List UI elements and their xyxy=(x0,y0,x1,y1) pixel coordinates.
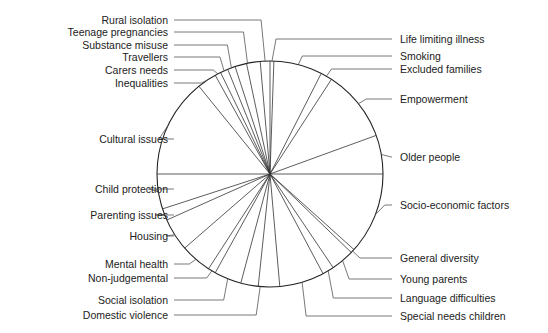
leader-line xyxy=(174,57,224,71)
pie-chart: Life limiting illnessSmokingExcluded fam… xyxy=(0,0,548,333)
slice-label: Special needs children xyxy=(400,310,506,322)
leader-line xyxy=(174,271,212,278)
slice-label: Non-judgemental xyxy=(88,272,168,284)
slice-label: Social isolation xyxy=(98,294,168,306)
slice-label: Smoking xyxy=(400,50,441,62)
slice-label: Mental health xyxy=(105,258,168,270)
slice-label: Young parents xyxy=(400,273,467,285)
slice-label: Carers needs xyxy=(105,64,168,76)
leader-line xyxy=(381,154,392,157)
slice-label: Travellers xyxy=(122,51,168,63)
leader-line xyxy=(328,271,392,298)
leader-line xyxy=(327,69,393,76)
leader-line xyxy=(302,282,392,316)
slice-label: Substance misuse xyxy=(82,39,168,51)
slice-label: Domestic violence xyxy=(83,309,168,321)
slice-label: Excluded families xyxy=(400,63,482,75)
leader-line xyxy=(343,261,392,279)
slice-label: Inequalities xyxy=(115,77,168,89)
slice-label: Teenage pregnancies xyxy=(68,26,168,38)
leader-line xyxy=(174,32,248,63)
slice-label: Parenting issues xyxy=(90,209,168,221)
leader-line xyxy=(174,287,260,315)
leader-line xyxy=(174,70,218,74)
leader-line xyxy=(174,20,265,61)
slice-label: Older people xyxy=(400,151,460,163)
slice-label: Socio-economic factors xyxy=(400,199,509,211)
leader-line xyxy=(298,56,392,65)
leader-line xyxy=(174,259,196,264)
slice-label: Life limiting illness xyxy=(400,33,485,45)
leader-line xyxy=(174,45,231,68)
slice-label: Language difficulties xyxy=(400,292,496,304)
slice-label: Rural isolation xyxy=(101,14,168,26)
leader-line xyxy=(358,99,392,104)
leader-line xyxy=(353,251,392,258)
slice-label: Housing xyxy=(129,230,168,242)
slice-label: General diversity xyxy=(400,252,480,264)
leader-line xyxy=(272,39,392,61)
leader-line xyxy=(174,80,207,83)
leader-line xyxy=(174,279,228,300)
slice-label: Cultural issues xyxy=(99,133,168,145)
slice-label: Empowerment xyxy=(400,93,468,105)
slice-label: Child protection xyxy=(95,183,168,195)
